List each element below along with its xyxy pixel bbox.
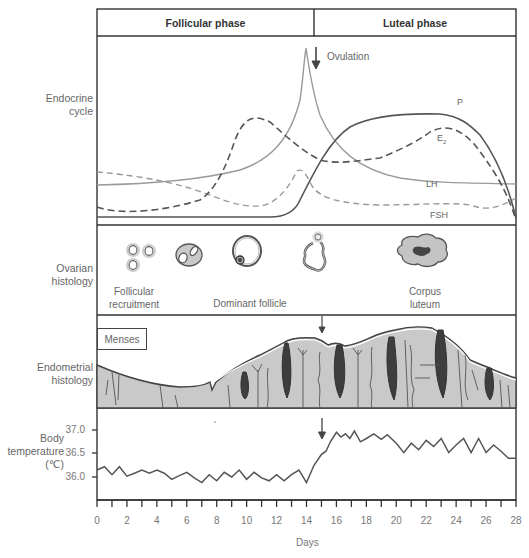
ovulation-label: Ovulation [327, 51, 369, 62]
secondary-follicle-icon [176, 244, 202, 266]
e2-curve [97, 118, 516, 220]
ruptured-follicle-icon [304, 232, 325, 271]
endometrium-tissue [97, 327, 516, 408]
x-tick-label: 6 [177, 515, 197, 526]
temperature-ovulation-arrow-icon [319, 418, 326, 439]
x-tick-label: 0 [87, 515, 107, 526]
x-axis-label: Days [296, 537, 319, 548]
menses-text: Menses [104, 334, 139, 345]
panel-frame [97, 9, 516, 500]
e2-subscript: 2 [443, 139, 446, 145]
recruited-follicles-icon [127, 244, 155, 271]
curve-label-e2: E2 [437, 133, 446, 145]
follicular-phase-header: Follicular phase [97, 9, 314, 36]
x-tick-label: 26 [476, 515, 496, 526]
caption-follicular-recruitment: Follicular recruitment [104, 285, 164, 311]
ovulation-marker-arrow-icon [319, 316, 325, 333]
curve-label-lh: LH [426, 179, 438, 189]
luteal-phase-header: Luteal phase [314, 9, 516, 36]
endometrial-histology [97, 316, 516, 408]
x-tick-label: 22 [416, 515, 436, 526]
x-tick-label: 20 [386, 515, 406, 526]
x-tick-label: 2 [117, 515, 137, 526]
endocrine-chart [97, 47, 516, 220]
dominant-follicle-icon [233, 236, 261, 266]
progesterone-curve [97, 114, 516, 218]
x-tick-label: 28 [506, 515, 526, 526]
x-tick-label: 8 [207, 515, 227, 526]
temperature-chart [92, 418, 516, 507]
ovarian-histology [127, 232, 447, 271]
x-tick-label: 16 [326, 515, 346, 526]
y-tick-36-0: 36.0 [66, 471, 85, 482]
menses-label: Menses [97, 328, 147, 350]
x-tick-label: 24 [446, 515, 466, 526]
curve-label-p: P [457, 97, 463, 107]
temperature-line [97, 431, 516, 483]
caption-dominant-follicle: Dominant follicle [205, 297, 295, 310]
ovulation-arrow-icon [312, 47, 320, 69]
y-tick-36-5: 36.5 [66, 447, 85, 458]
fsh-curve [97, 170, 516, 208]
x-tick-label: 12 [267, 515, 287, 526]
x-tick-label: 10 [237, 515, 257, 526]
x-tick-label: 4 [147, 515, 167, 526]
corpus-luteum-icon [398, 234, 448, 266]
y-tick-37-0: 37.0 [66, 424, 85, 435]
x-tick-label: 18 [356, 515, 376, 526]
curve-label-fsh: FSH [430, 210, 448, 220]
x-tick-label: 14 [297, 515, 317, 526]
caption-corpus-luteum: Corpus luteum [400, 285, 450, 311]
